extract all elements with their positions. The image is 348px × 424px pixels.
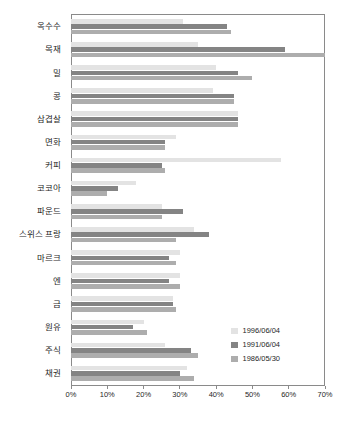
- bar-group: [71, 246, 325, 269]
- y-axis-label: 금: [0, 293, 66, 316]
- y-axis-label: 밀: [0, 61, 66, 84]
- bar-track: [71, 366, 325, 371]
- bar-track: [71, 307, 325, 312]
- bar-track: [71, 47, 325, 52]
- bar-track: [71, 42, 325, 47]
- bar: [71, 163, 162, 168]
- bar-track: [71, 181, 325, 186]
- bar: [71, 122, 238, 127]
- bar: [71, 71, 238, 76]
- bar-group: [71, 293, 325, 316]
- bar-track: [71, 163, 325, 168]
- y-axis-labels: 옥수수목재밀콩삼겹살면화커피코코아파운드스위스 프랑마르크엔금원유주식채권: [0, 15, 66, 385]
- bar-track: [71, 145, 325, 150]
- bar-chart: 옥수수목재밀콩삼겹살면화커피코코아파운드스위스 프랑마르크엔금원유주식채권 0%…: [0, 0, 348, 424]
- bar-track: [71, 191, 325, 196]
- bar: [71, 371, 180, 376]
- bar: [71, 307, 176, 312]
- bar-track: [71, 227, 325, 232]
- bar: [71, 168, 165, 173]
- bar-track: [71, 53, 325, 58]
- bar: [71, 238, 176, 243]
- bar-track: [71, 168, 325, 173]
- y-axis-label: 삼겹살: [0, 108, 66, 131]
- bar-group: [71, 61, 325, 84]
- bar-track: [71, 330, 325, 335]
- bar-track: [71, 302, 325, 307]
- bar-group: [71, 316, 325, 339]
- bar-track: [71, 353, 325, 358]
- bar: [71, 30, 231, 35]
- x-axis-tick-label: 10%: [100, 391, 115, 399]
- bar-track: [71, 250, 325, 255]
- bar-track: [71, 140, 325, 145]
- x-axis-tick-label: 60%: [281, 391, 296, 399]
- bar: [71, 19, 183, 24]
- bar-track: [71, 256, 325, 261]
- x-axis-tick-label: 20%: [136, 391, 151, 399]
- bar: [71, 302, 173, 307]
- x-axis: 0%10%20%30%40%50%60%70%: [71, 386, 325, 408]
- x-axis-tick: [71, 386, 72, 389]
- bar-track: [71, 158, 325, 163]
- y-axis-label: 목재: [0, 38, 66, 61]
- bar: [71, 209, 183, 214]
- bar-track: [71, 30, 325, 35]
- bar: [71, 186, 118, 191]
- bar-track: [71, 117, 325, 122]
- x-axis-tick: [107, 386, 108, 389]
- legend-label: 1991/06/04: [243, 341, 281, 349]
- bar-track: [71, 376, 325, 381]
- bar-track: [71, 71, 325, 76]
- bar-track: [71, 279, 325, 284]
- bar-track: [71, 296, 325, 301]
- x-axis-tick: [325, 386, 326, 389]
- bar-track: [71, 76, 325, 81]
- bar: [71, 279, 169, 284]
- bar-track: [71, 325, 325, 330]
- y-axis-label: 콩: [0, 84, 66, 107]
- y-axis-label: 엔: [0, 269, 66, 292]
- legend-swatch-icon: [231, 328, 238, 335]
- bar: [71, 376, 194, 381]
- bar: [71, 330, 147, 335]
- x-axis-tick: [143, 386, 144, 389]
- bar: [71, 284, 180, 289]
- y-axis-label: 스위스 프랑: [0, 223, 66, 246]
- y-axis-label: 파운드: [0, 200, 66, 223]
- bar-track: [71, 99, 325, 104]
- y-axis-label: 원유: [0, 316, 66, 339]
- bar-track: [71, 19, 325, 24]
- chart-legend: 1996/06/041991/06/041986/05/30: [231, 327, 280, 363]
- bar-track: [71, 135, 325, 140]
- bar-track: [71, 94, 325, 99]
- bar-group: [71, 177, 325, 200]
- bar-track: [71, 320, 325, 325]
- bar-group: [71, 131, 325, 154]
- bar-group: [71, 269, 325, 292]
- bar: [71, 215, 162, 220]
- bar: [71, 94, 234, 99]
- bar: [71, 99, 234, 104]
- bar: [71, 135, 176, 140]
- bar-group: [71, 154, 325, 177]
- bar-track: [71, 209, 325, 214]
- bar: [71, 204, 162, 209]
- bar: [71, 320, 144, 325]
- legend-item: 1986/05/30: [231, 355, 280, 363]
- bar: [71, 117, 238, 122]
- bar-track: [71, 348, 325, 353]
- y-axis-label: 마르크: [0, 246, 66, 269]
- bar-track: [71, 215, 325, 220]
- legend-swatch-icon: [231, 356, 238, 363]
- x-axis-tick-label: 30%: [172, 391, 187, 399]
- bar: [71, 250, 180, 255]
- bar-track: [71, 273, 325, 278]
- bar: [71, 256, 169, 261]
- bar: [71, 88, 213, 93]
- bar: [71, 343, 165, 348]
- bar: [71, 111, 238, 116]
- bar: [71, 325, 133, 330]
- x-axis-tick-label: 50%: [245, 391, 260, 399]
- legend-label: 1986/05/30: [243, 355, 281, 363]
